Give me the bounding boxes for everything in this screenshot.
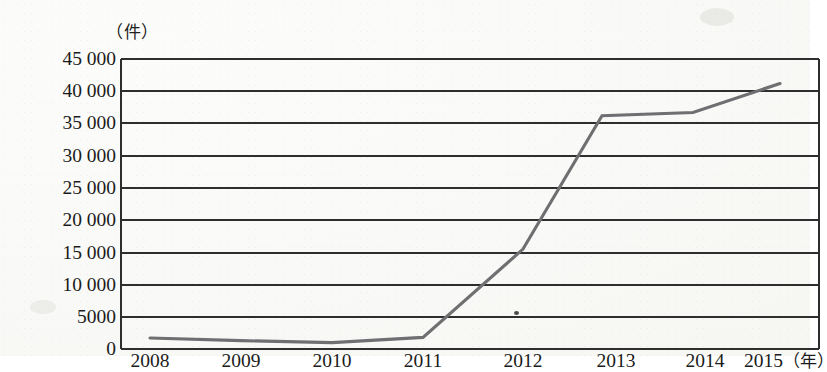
x-axis-unit-label: （年） [783, 351, 827, 371]
x-tick-label-2008: 2008 [131, 351, 170, 371]
x-tick-label-2015: 2015（年） [744, 351, 827, 371]
x-tick-label-2011: 2011 [404, 351, 442, 371]
x-tick-label-2015-year: 2015 [744, 350, 783, 371]
x-tick-label-2013: 2013 [597, 351, 636, 371]
ink-speck-artifact [514, 311, 519, 315]
x-tick-label-2012: 2012 [504, 351, 543, 371]
x-tick-label-2009: 2009 [222, 351, 261, 371]
x-tick-label-2014: 2014 [686, 351, 725, 371]
chart-plot-area [40, 16, 827, 372]
axis-frame [121, 59, 819, 349]
x-tick-label-2010: 2010 [313, 351, 352, 371]
line-chart: （件） 45 000 40 000 35 000 30 000 25 000 2… [40, 16, 770, 340]
gridlines [121, 91, 819, 317]
